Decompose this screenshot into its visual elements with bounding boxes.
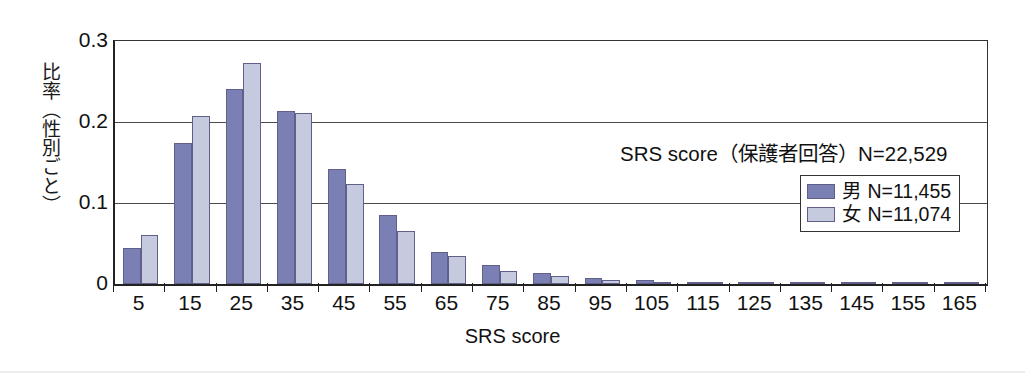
- bar-group: [525, 41, 576, 284]
- bar-group: [269, 41, 320, 284]
- bar-female: [141, 235, 159, 284]
- x-tick-label: 55: [369, 291, 420, 315]
- x-tick-label: 85: [523, 291, 574, 315]
- legend-label: 女 N=11,074: [842, 204, 951, 225]
- female-color-swatch: [807, 207, 835, 222]
- x-tick-mark: [985, 283, 986, 292]
- y-tick-label: 0.1: [62, 191, 108, 212]
- bar-female: [295, 113, 313, 284]
- x-tick-label: 65: [421, 291, 472, 315]
- x-tick-label: 15: [164, 291, 215, 315]
- bar-male: [226, 89, 244, 284]
- x-tick-label: 125: [729, 291, 780, 315]
- bar-female: [397, 231, 415, 284]
- x-tick-label: 155: [882, 291, 933, 315]
- x-tick-label: 115: [677, 291, 728, 315]
- y-axis-title: 比率（性別ごと）: [26, 62, 60, 214]
- x-tick-label: 105: [626, 291, 677, 315]
- chart-legend: 男 N=11,455女 N=11,074: [800, 175, 960, 232]
- bar-female: [448, 256, 466, 284]
- y-tick-label: 0: [62, 272, 108, 293]
- bar-male: [379, 215, 397, 284]
- x-tick-label: 145: [831, 291, 882, 315]
- y-tick-label: 0.3: [62, 29, 108, 50]
- chart-annotation: SRS score（保護者回答）N=22,529: [620, 142, 947, 165]
- bar-male: [482, 265, 500, 284]
- x-tick-label: 165: [934, 291, 985, 315]
- bar-female: [243, 63, 261, 284]
- x-tick-label: 35: [267, 291, 318, 315]
- x-tick-label: 5: [113, 291, 164, 315]
- y-axis-tick-labels: 00.10.20.3: [58, 0, 108, 373]
- bar-group: [115, 41, 166, 284]
- bar-male: [328, 169, 346, 284]
- legend-label: 男 N=11,455: [842, 181, 951, 202]
- bar-male: [174, 143, 192, 284]
- male-color-swatch: [807, 184, 835, 199]
- bar-male: [277, 111, 295, 284]
- legend-entry: 男 N=11,455: [807, 180, 951, 203]
- x-tick-label: 95: [575, 291, 626, 315]
- bar-group: [474, 41, 525, 284]
- y-tick-label: 0.2: [62, 110, 108, 131]
- bar-group: [423, 41, 474, 284]
- x-tick-label: 25: [216, 291, 267, 315]
- bar-female: [192, 116, 210, 284]
- bar-group: [166, 41, 217, 284]
- bar-chart-figure: 比率（性別ごと） 00.10.20.3 51525354555657585951…: [0, 0, 1025, 373]
- x-tick-label: 135: [780, 291, 831, 315]
- bar-group: [320, 41, 371, 284]
- x-axis-title: SRS score: [0, 325, 1025, 347]
- legend-entry: 女 N=11,074: [807, 203, 951, 226]
- x-axis-tick-labels: 5152535455565758595105115125135145155165: [113, 291, 985, 317]
- bar-group: [218, 41, 269, 284]
- x-tick-label: 75: [472, 291, 523, 315]
- bar-male: [431, 252, 449, 284]
- x-tick-label: 45: [318, 291, 369, 315]
- bar-group: [371, 41, 422, 284]
- bar-male: [123, 248, 141, 284]
- bar-female: [346, 184, 364, 284]
